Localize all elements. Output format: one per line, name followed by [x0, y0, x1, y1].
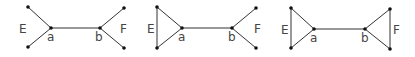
node — [289, 46, 293, 50]
node — [26, 5, 30, 9]
label-F: F — [120, 22, 127, 36]
node — [254, 46, 258, 50]
edge — [365, 29, 390, 49]
node — [388, 7, 392, 11]
label-a: a — [178, 30, 185, 44]
edge — [232, 8, 256, 28]
label-a: a — [47, 30, 54, 44]
node — [388, 47, 392, 51]
node — [122, 6, 126, 10]
edge — [291, 8, 314, 29]
label-F: F — [393, 23, 400, 37]
label-E: E — [281, 23, 289, 37]
label-F: F — [254, 22, 261, 36]
label-b: b — [228, 30, 236, 44]
edge — [365, 9, 390, 29]
graph-3: E a b F — [281, 6, 400, 51]
graph-1: E a b F — [19, 5, 127, 50]
graph-2: E a b F — [147, 5, 261, 50]
label-a: a — [310, 31, 317, 45]
graph-diagrams: E a b F E a b F E a b — [0, 0, 415, 57]
node — [122, 46, 126, 50]
edge — [157, 7, 182, 28]
node — [254, 6, 258, 10]
node — [155, 46, 159, 50]
label-b: b — [95, 30, 103, 44]
node — [155, 5, 159, 9]
label-E: E — [19, 22, 27, 36]
edge — [28, 7, 51, 28]
label-E: E — [147, 22, 155, 36]
label-b: b — [361, 31, 369, 45]
node — [289, 6, 293, 10]
node — [26, 45, 30, 49]
